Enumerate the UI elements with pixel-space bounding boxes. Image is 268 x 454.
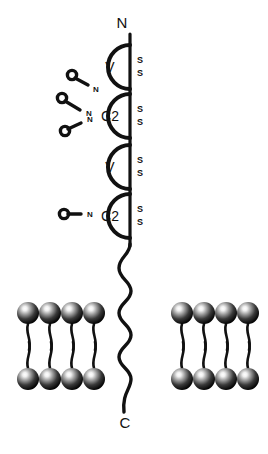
domain-label: C2 [101, 108, 119, 124]
diagram-canvas: N V S S C2 S S V S S C2 S S [0, 0, 268, 454]
lipid-head [83, 302, 105, 324]
disulfide-s-upper: S [137, 55, 143, 65]
lipid-head [61, 368, 83, 390]
lipid-head [171, 302, 193, 324]
disulfide-s-upper: S [137, 155, 143, 165]
lipid-head [171, 368, 193, 390]
lipid-head [17, 302, 39, 324]
disulfide-s-lower: S [137, 217, 143, 227]
lipid-head [193, 368, 215, 390]
lipid-head [237, 368, 259, 390]
domain-label: C2 [101, 208, 119, 224]
lipid-head [215, 368, 237, 390]
disulfide-s-lower: S [137, 117, 143, 127]
domain-label: V [105, 159, 115, 175]
glycan-n-label: N [87, 115, 93, 124]
domain-label: V [105, 59, 115, 75]
c-terminus-label: C [120, 414, 131, 431]
lipid-head [193, 302, 215, 324]
glycan-n-label: N [93, 85, 99, 94]
disulfide-s-lower: S [137, 168, 143, 178]
disulfide-s-upper: S [137, 104, 143, 114]
lipid-head [39, 368, 61, 390]
disulfide-s-upper: S [137, 204, 143, 214]
glycan-n-label: N [87, 210, 93, 219]
lipid-head [83, 368, 105, 390]
lipid-head [61, 302, 83, 324]
lipid-head [215, 302, 237, 324]
disulfide-s-lower: S [137, 68, 143, 78]
lipid-head [237, 302, 259, 324]
lipid-head [39, 302, 61, 324]
protein-membrane-diagram: N V S S C2 S S V S S C2 S S [0, 0, 268, 454]
lipid-head [17, 368, 39, 390]
n-terminus-label: N [117, 14, 128, 31]
